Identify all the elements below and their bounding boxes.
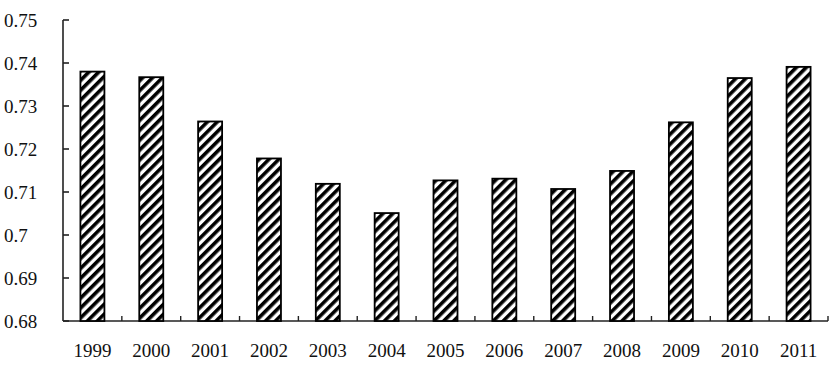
bars bbox=[80, 67, 810, 321]
bar-2009 bbox=[669, 122, 693, 321]
y-tick-label: 0.74 bbox=[4, 53, 38, 74]
bar-2004 bbox=[375, 213, 399, 321]
y-tick-label: 0.7 bbox=[4, 225, 28, 246]
y-tick-label: 0.71 bbox=[4, 182, 37, 203]
bar-2011 bbox=[787, 67, 811, 321]
bar-2008 bbox=[610, 171, 634, 321]
y-tick-label: 0.75 bbox=[4, 10, 37, 31]
x-tick-label: 2010 bbox=[721, 340, 759, 361]
x-tick-label: 2005 bbox=[427, 340, 465, 361]
y-tick-label: 0.73 bbox=[4, 96, 37, 117]
x-tick-label: 1999 bbox=[73, 340, 111, 361]
x-tick-label: 2006 bbox=[485, 340, 523, 361]
x-tick-label: 2011 bbox=[780, 340, 817, 361]
y-axis: 0.680.690.70.710.720.730.740.75 bbox=[4, 10, 69, 332]
x-tick-label: 2008 bbox=[603, 340, 641, 361]
x-tick-label: 2002 bbox=[250, 340, 288, 361]
x-tick-label: 2003 bbox=[309, 340, 347, 361]
bar-2001 bbox=[198, 121, 222, 321]
bar-2003 bbox=[316, 184, 340, 321]
y-tick-label: 0.68 bbox=[4, 311, 37, 332]
x-tick-label: 2007 bbox=[544, 340, 582, 361]
bar-2006 bbox=[492, 179, 516, 321]
x-tick-label: 2009 bbox=[662, 340, 700, 361]
bar-1999 bbox=[80, 72, 104, 321]
x-axis: 1999200020012002200320042005200620072008… bbox=[63, 316, 828, 361]
y-tick-label: 0.69 bbox=[4, 268, 37, 289]
bar-2007 bbox=[551, 189, 575, 321]
y-tick-label: 0.72 bbox=[4, 139, 37, 160]
x-tick-label: 2000 bbox=[132, 340, 170, 361]
bar-chart: 0.680.690.70.710.720.730.740.75 19992000… bbox=[0, 0, 839, 382]
bar-2002 bbox=[257, 158, 281, 321]
x-tick-label: 2004 bbox=[368, 340, 407, 361]
bar-2005 bbox=[434, 180, 458, 321]
bar-2000 bbox=[139, 77, 163, 321]
x-tick-label: 2001 bbox=[191, 340, 229, 361]
bar-2010 bbox=[728, 78, 752, 321]
